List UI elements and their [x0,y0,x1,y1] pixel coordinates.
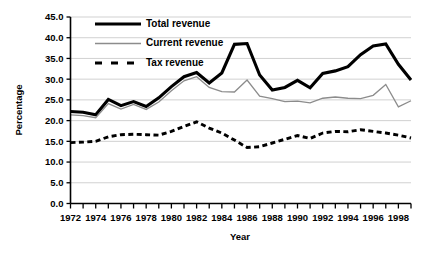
y-axis-title: Percentage [13,84,24,135]
x-tick-label-1982: 1982 [186,212,207,223]
y-tick-label-30: 30.0 [45,74,64,85]
x-tick-label-1988: 1988 [262,212,283,223]
x-tick-label-1986: 1986 [236,212,257,223]
y-tick-label-0: 0.0 [50,198,63,209]
legend-label-0: Total revenue [146,18,211,29]
y-tick-label-15: 15.0 [45,136,64,147]
x-tick-label-1984: 1984 [211,212,233,223]
x-tick-label-1998: 1998 [388,212,409,223]
x-axis-title: Year [230,231,250,242]
y-tick-label-10: 10.0 [45,156,64,167]
x-tick-label-1990: 1990 [287,212,308,223]
y-tick-label-40: 40.0 [45,32,64,43]
y-tick-label-5: 5.0 [50,177,63,188]
x-tick-label-1978: 1978 [136,212,157,223]
y-tick-label-35: 35.0 [45,53,64,64]
legend-label-2: Tax revenue [146,57,204,68]
x-tick-label-1976: 1976 [110,212,131,223]
x-tick-label-1994: 1994 [337,212,359,223]
x-tick-label-1974: 1974 [85,212,107,223]
y-tick-label-45: 45.0 [45,11,64,22]
legend-label-1: Current revenue [146,37,224,48]
revenue-line-chart: 0.05.010.015.020.025.030.035.040.045.0 1… [0,0,427,256]
y-tick-label-20: 20.0 [45,115,64,126]
x-tick-label-1992: 1992 [312,212,333,223]
x-tick-label-1972: 1972 [60,212,81,223]
x-tick-label-1996: 1996 [363,212,384,223]
chart-canvas: 0.05.010.015.020.025.030.035.040.045.0 1… [0,0,427,256]
y-tick-label-25: 25.0 [45,94,64,105]
x-tick-label-1980: 1980 [161,212,182,223]
